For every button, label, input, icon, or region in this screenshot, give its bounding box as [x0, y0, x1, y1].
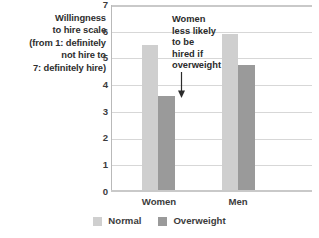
- x-tick-men: Men: [207, 196, 269, 207]
- legend-label-normal: Normal: [108, 216, 141, 226]
- legend-entry-normal: Normal: [93, 216, 141, 226]
- chart-legend: Normal Overweight: [0, 213, 319, 229]
- legend-entry-overweight: Overweight: [158, 216, 225, 226]
- legend-swatch-overweight: [158, 217, 167, 226]
- y-tick-0: 0: [86, 187, 108, 197]
- bar-men-overweight: [238, 65, 255, 192]
- bar-women-overweight: [158, 96, 175, 192]
- annotation-line-3: to be: [172, 37, 234, 49]
- legend-swatch-normal: [93, 217, 102, 226]
- y-tick-1: 1: [86, 160, 108, 170]
- legend-label-overweight: Overweight: [173, 216, 225, 226]
- y-tick-4: 4: [86, 80, 108, 90]
- y-tick-2: 2: [86, 133, 108, 143]
- annotation-line-1: Women: [172, 14, 234, 26]
- chart-figure: Willingness to hire scale (from 1: defin…: [0, 0, 319, 238]
- y-axis-ticks: 7 6 5 4 3 2 1 0: [84, 0, 108, 192]
- x-axis-line: [111, 190, 312, 192]
- annotation-arrow-down-icon: [177, 72, 186, 98]
- x-tick-women: Women: [128, 196, 190, 207]
- annotation-line-2: less likely: [172, 26, 234, 38]
- annotation-line-4: hired if: [172, 49, 234, 61]
- y-tick-5: 5: [86, 53, 108, 63]
- bar-women-normal: [142, 45, 158, 192]
- annotation-line-5: overweight: [172, 60, 234, 72]
- y-tick-6: 6: [86, 27, 108, 37]
- y-tick-3: 3: [86, 107, 108, 117]
- y-tick-7: 7: [86, 0, 108, 10]
- annotation-text: Women less likely to be hired if overwei…: [172, 14, 234, 72]
